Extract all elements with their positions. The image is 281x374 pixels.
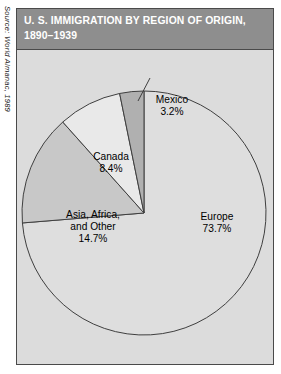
chart-title-bar: U. S. IMMIGRATION BY REGION OF ORIGIN, 1…: [17, 9, 273, 50]
chart-title-line-2: 1890–1939: [24, 29, 273, 44]
pie-label-europe: Europe 73.7%: [181, 211, 253, 235]
source-credit: Source: World Almanac, 1989: [0, 0, 16, 374]
source-credit-label: Source: World Almanac, 1989: [3, 6, 11, 112]
pie-label-asia-africa-other: Asia, Africa, and Other 14.7%: [41, 209, 145, 246]
pie-label-europe-name: Europe: [181, 211, 253, 223]
pie-label-asia-africa-other-name-1: Asia, Africa,: [41, 209, 145, 221]
pie-label-mexico-name: Mexico: [135, 94, 209, 106]
pie-label-canada: Canada 8.4%: [75, 151, 147, 175]
pie-label-asia-africa-other-name-2: and Other: [41, 221, 145, 233]
chart-frame: U. S. IMMIGRATION BY REGION OF ORIGIN, 1…: [16, 8, 274, 365]
pie-label-mexico: Mexico 3.2%: [135, 94, 209, 118]
pie-label-europe-value: 73.7%: [181, 223, 253, 235]
pie-label-asia-africa-other-value: 14.7%: [41, 233, 145, 245]
pie-label-mexico-value: 3.2%: [135, 106, 209, 118]
pie-chart-plot-area: Mexico 3.2% Canada 8.4% Asia, Africa, an…: [17, 50, 273, 364]
source-credit-rotated: Source: World Almanac, 1989: [3, 6, 11, 112]
pie-label-canada-name: Canada: [75, 151, 147, 163]
chart-title-line-1: U. S. IMMIGRATION BY REGION OF ORIGIN,: [24, 14, 273, 29]
pie-label-canada-value: 8.4%: [75, 163, 147, 175]
